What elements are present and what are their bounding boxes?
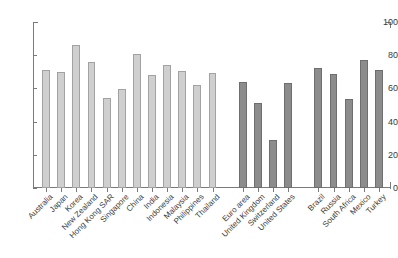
bar — [269, 140, 277, 188]
bar — [209, 73, 217, 188]
bar — [193, 85, 201, 188]
x-tick-mark — [258, 188, 259, 192]
bar — [375, 70, 383, 188]
bar — [239, 82, 247, 188]
bar-series — [34, 22, 391, 188]
bar — [360, 60, 368, 188]
y-tick-mark — [33, 188, 37, 189]
bar — [42, 70, 50, 188]
bar — [314, 68, 322, 188]
bar — [133, 54, 141, 188]
x-tick-mark — [213, 188, 214, 192]
bar — [72, 45, 80, 188]
bar — [103, 98, 111, 188]
x-tick-mark — [379, 188, 380, 192]
x-tick-mark — [288, 188, 289, 192]
bar — [148, 75, 156, 188]
bar — [118, 89, 126, 188]
bar — [284, 83, 292, 188]
x-tick-mark — [334, 188, 335, 192]
x-tick-mark — [122, 188, 123, 192]
x-tick-mark — [76, 188, 77, 192]
bar — [345, 99, 353, 188]
bar — [57, 72, 65, 188]
x-tick-mark — [243, 188, 244, 192]
x-tick-mark — [349, 188, 350, 192]
x-tick-mark — [182, 188, 183, 192]
x-tick-mark — [61, 188, 62, 192]
bar — [330, 74, 338, 188]
x-tick-mark — [107, 188, 108, 192]
bar-chart: 020406080100 AustraliaJapanKoreaNew Zeal… — [0, 0, 398, 258]
bar — [254, 103, 262, 188]
bar — [178, 71, 186, 188]
x-tick-mark — [364, 188, 365, 192]
x-tick-mark — [46, 188, 47, 192]
x-tick-mark — [167, 188, 168, 192]
bar — [88, 62, 96, 188]
bar — [163, 65, 171, 188]
x-tick-mark — [137, 188, 138, 192]
x-tick-mark — [273, 188, 274, 192]
x-tick-mark — [152, 188, 153, 192]
